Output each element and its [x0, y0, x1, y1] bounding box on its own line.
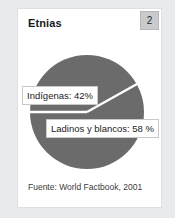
- figure-page: Etnias 2 Indígenas: 42% Ladinos y blanco…: [0, 0, 175, 218]
- pie-slice-label-indigenas: Indígenas: 42%: [22, 86, 98, 105]
- pie-slice-label-ladinos: Ladinos y blancos: 58 %: [46, 119, 159, 138]
- source-caption: Fuente: World Factbook, 2001: [28, 182, 142, 192]
